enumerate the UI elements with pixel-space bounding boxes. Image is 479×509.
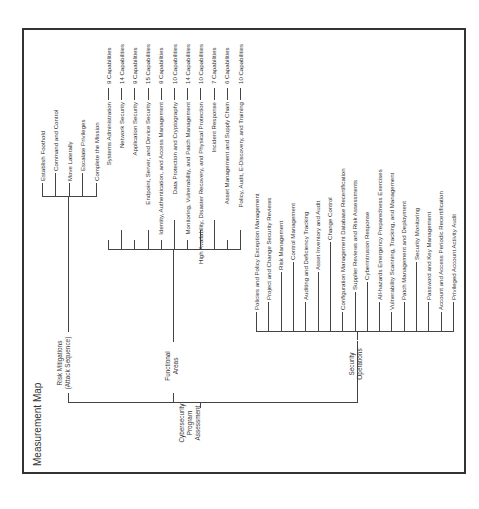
secops-item-label: Vulnerability Scanning, Tracking, and Ma… (388, 173, 395, 310)
risk-branch-connector (68, 393, 69, 403)
risk-item-connector (96, 183, 97, 197)
risk-label-line-2: (Attack Sequence) (64, 332, 72, 394)
functional-item-leader (200, 88, 201, 100)
risk-item-label: Complete the Mission (93, 122, 100, 181)
secops-item-stem (379, 302, 380, 332)
capability-count: 14 Capabilities (118, 44, 125, 84)
functional-item-stem (121, 230, 122, 250)
secops-item-stem (318, 272, 319, 332)
secops-label-line-2: Operations (356, 340, 364, 388)
functional-item-label: Network Security (118, 102, 125, 148)
functional-item-leader (121, 88, 122, 100)
functional-item-label: Monitoring, Vulnerability, and Patch Man… (184, 102, 191, 234)
capability-count: 9 Capabilities (157, 47, 164, 84)
capability-count: 10 Capabilities (237, 44, 244, 84)
capability-count: 15 Capabilities (144, 44, 151, 84)
secops-item-label: All-hazards Emergency Preparedness Exerc… (376, 169, 383, 300)
secops-item-stem (404, 302, 405, 332)
secops-item-stem (268, 302, 269, 332)
functional-item-label: Data Protection and Cryptography (171, 102, 178, 194)
secops-to-bracket-line (357, 332, 358, 340)
main-spine (68, 402, 358, 403)
functional-item-leader (227, 88, 228, 100)
functional-item-label: Asset Management and Supply Chain (223, 102, 230, 204)
secops-item-stem (330, 242, 331, 332)
secops-item-stem (391, 312, 392, 332)
functional-item-leader (148, 88, 149, 100)
capability-count: 6 Capabilities (223, 47, 230, 84)
functional-item-stem (214, 220, 215, 250)
secops-item-stem (342, 312, 343, 332)
risk-label-line-1: Risk Mitigations (56, 332, 64, 394)
functional-item-label: Application Security (131, 102, 138, 156)
secops-item-label: Control Management (289, 203, 296, 260)
secops-item-label: Security Monitoring (413, 208, 420, 260)
functional-item-leader (214, 88, 215, 100)
secops-item-label: Password and Key Management (425, 212, 432, 300)
secops-item-stem (293, 262, 294, 332)
functional-item-stem (174, 220, 175, 250)
secops-label-line-1: Security (348, 340, 356, 388)
functional-item-leader (187, 88, 188, 100)
functional-label-line-1: Functional (164, 344, 172, 388)
risk-item-connector (69, 183, 70, 197)
functional-item-leader (161, 88, 162, 100)
risk-item-connector (82, 173, 83, 197)
risk-item-label: Escalate Privileges (79, 120, 86, 171)
secops-item-stem (367, 282, 368, 332)
functional-item-label: Incident Response (210, 102, 217, 152)
secops-item-label: Change Control (326, 197, 333, 240)
functional-item-label: Systems Administration (105, 102, 112, 165)
secops-item-label: Supplier Reviews and Risk Assessments (351, 180, 358, 290)
functional-item-stem (240, 230, 241, 250)
functional-item-leader (174, 88, 175, 100)
capability-count: 9 Capabilities (105, 47, 112, 84)
capability-count: 14 Capabilities (184, 44, 191, 84)
rotated-diagram: Measurement Map Cybersecurity Program As… (22, 28, 466, 474)
secops-item-label: Auditing and Deficiency Tracking (302, 212, 309, 300)
risk-item-connector (42, 183, 43, 197)
secops-item-stem (441, 312, 442, 332)
secops-item-stem (305, 302, 306, 332)
capability-count: 7 Capabilities (210, 47, 217, 84)
functional-item-stem (161, 240, 162, 250)
secops-item-stem (453, 302, 454, 332)
secops-item-stem (428, 302, 429, 332)
functional-item-label: Identity, Authentication, and Access Man… (157, 102, 164, 235)
secops-item-label: Privileged Account Activity Audit (450, 214, 457, 300)
secops-item-label: Account and Access Periodic Recertificat… (437, 191, 444, 310)
functional-item-leader (240, 88, 241, 100)
secops-item-label: Cyberintrusion Response (363, 212, 370, 280)
functional-item-leader (108, 88, 109, 100)
functional-item-leader (134, 88, 135, 100)
risk-item-label: Move Laterally (66, 141, 73, 181)
functional-item-stem (187, 240, 188, 250)
measurement-map-frame: Measurement Map Cybersecurity Program As… (22, 28, 466, 474)
functional-branch-connector (173, 393, 174, 403)
security-operations-node: Security Operations (348, 340, 364, 388)
secops-item-stem (355, 292, 356, 332)
secops-item-stem (281, 272, 282, 332)
capability-count: 10 Capabilities (171, 44, 178, 84)
secops-item-label: Policies and Policy Exception Management (253, 193, 260, 310)
risk-item-label: Establish Foothold (39, 131, 46, 181)
functional-item-stem (148, 230, 149, 250)
secops-item-stem (256, 312, 257, 332)
risk-mitigations-node: Risk Mitigations (Attack Sequence) (56, 332, 72, 394)
functional-areas-node: Functional Areas (164, 344, 180, 388)
risk-item-label: Command and Control (52, 110, 59, 171)
functional-item-label: Policy, Audit, E-Discovery, and Training (237, 102, 244, 207)
secops-item-label: Asset Inventory and Audit (314, 201, 321, 270)
functional-item-label: High Availability, Disaster Recovery, an… (197, 102, 204, 264)
functional-item-stem (134, 240, 135, 250)
secops-item-stem (416, 262, 417, 332)
functional-label-line-2: Areas (172, 344, 180, 388)
functional-item-label: Endpoint, Server, and Device Security (144, 102, 151, 205)
functional-item-stem (227, 240, 228, 250)
secops-item-label: Patch Management and Deployment (400, 201, 407, 300)
capability-count: 9 Capabilities (131, 47, 138, 84)
secops-item-label: Configuration Management Database Recert… (339, 168, 346, 310)
risk-to-bracket-line (68, 197, 69, 332)
diagram-title: Measurement Map (32, 383, 44, 466)
capability-count: 10 Capabilities (197, 44, 204, 84)
